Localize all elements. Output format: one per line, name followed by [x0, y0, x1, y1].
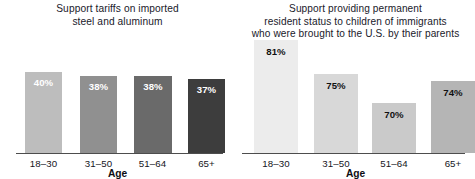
x-axis-line-tariffs: [16, 153, 223, 154]
bar-value-daca-31-50: 75%: [314, 80, 358, 91]
bar-slot-daca-18-30: 81%: [254, 38, 298, 153]
bar-daca-51-64: 70%: [372, 103, 416, 153]
bar-daca-31-50: 75%: [314, 74, 358, 153]
bar-value-tariffs-51-64: 38%: [134, 81, 172, 92]
chart-panel-daca: Support providing permanent resident sta…: [236, 0, 475, 179]
bar-value-daca-65-plus: 74%: [431, 87, 475, 98]
plot-area-tariffs: 40% 38% 38% 37%: [0, 40, 235, 179]
bar-slot-daca-65-plus: 74%: [431, 38, 475, 153]
bar-tariffs-51-64: 38%: [134, 76, 172, 153]
plot-area-daca: 81% 75% 70% 74%: [236, 38, 475, 179]
bar-tariffs-18-30: 40%: [25, 72, 62, 153]
bar-daca-18-30: 81%: [254, 40, 298, 153]
bar-value-tariffs-31-50: 38%: [80, 81, 117, 92]
bar-value-daca-18-30: 81%: [254, 46, 298, 57]
bar-slot-daca-31-50: 75%: [314, 38, 358, 153]
bar-value-daca-51-64: 70%: [372, 109, 416, 120]
bar-group-tariffs: 40% 38% 38% 37%: [0, 40, 235, 153]
bar-value-tariffs-18-30: 40%: [25, 77, 62, 88]
x-axis-title-daca: Age: [236, 168, 475, 179]
bar-tariffs-31-50: 38%: [80, 76, 117, 153]
bar-slot-daca-51-64: 70%: [372, 38, 416, 153]
dual-bar-chart-figure: Support tariffs on imported steel and al…: [0, 0, 475, 179]
bar-value-tariffs-65-plus: 37%: [188, 84, 225, 95]
chart-panel-tariffs: Support tariffs on imported steel and al…: [0, 0, 235, 179]
bar-slot-18-30: 40%: [25, 40, 62, 153]
x-axis-line-daca: [242, 153, 465, 154]
bar-slot-31-50: 38%: [80, 40, 117, 153]
bar-slot-65-plus: 37%: [188, 40, 225, 153]
panel-title-daca: Support providing permanent resident sta…: [236, 3, 475, 41]
bar-slot-51-64: 38%: [134, 40, 172, 153]
bar-tariffs-65-plus: 37%: [188, 79, 225, 153]
bar-daca-65-plus: 74%: [431, 81, 475, 153]
x-axis-title-tariffs: Age: [0, 168, 235, 179]
bar-group-daca: 81% 75% 70% 74%: [236, 38, 475, 153]
panel-title-tariffs: Support tariffs on imported steel and al…: [0, 3, 235, 28]
